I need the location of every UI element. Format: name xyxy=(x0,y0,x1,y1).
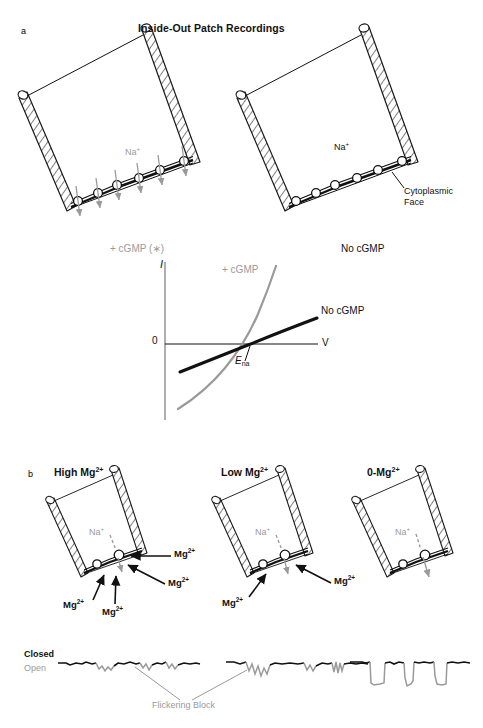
pipette-wall-left-b2 xyxy=(211,495,254,577)
sodium-label-left: Na+ xyxy=(125,147,140,157)
pipette-wall-right-2 xyxy=(358,23,418,165)
panel-a-letter: a xyxy=(21,26,26,36)
condition-label-low-mg: Low Mg2+ xyxy=(221,466,268,478)
mg-diagram-zero xyxy=(351,465,453,577)
condition-label-zero-mg: 0-Mg2+ xyxy=(367,466,400,478)
mg-label-b1-bottom: Mg2+ xyxy=(102,607,123,618)
pipette-wall-right-b2 xyxy=(275,465,313,556)
pipette-wall-right xyxy=(140,23,200,165)
mg-label-b2-right: Mg2+ xyxy=(334,576,355,587)
iv-curve-no-cgmp-label: No cGMP xyxy=(321,305,364,317)
trace-low-mg xyxy=(226,662,368,676)
sodium-label-b1: Na+ xyxy=(89,527,104,537)
iv-curve-cgmp xyxy=(178,266,276,409)
condition-label-high-mg: High Mg2+ xyxy=(54,466,104,478)
current-traces xyxy=(58,662,470,700)
sodium-label-right: Na+ xyxy=(334,142,349,152)
iv-reversal-potential-label: Ena xyxy=(235,355,249,367)
trace-high-mg xyxy=(58,662,200,671)
membrane-patch-2 xyxy=(289,160,411,207)
panel-a-title: Inside-Out Patch Recordings xyxy=(138,22,285,34)
condition-label-cgmp: + cGMP (∗) xyxy=(110,243,164,255)
mg-label-b1-left: Mg2+ xyxy=(63,600,84,611)
sodium-label-b3: Na+ xyxy=(395,527,410,537)
iv-origin-label: 0 xyxy=(152,335,158,347)
patch-diagram-cgmp xyxy=(17,23,200,216)
trace-zero-mg xyxy=(350,662,470,686)
sodium-label-b2: Na+ xyxy=(255,527,270,537)
mg-diagram-low xyxy=(211,465,331,597)
trace-label-open: Open xyxy=(24,663,46,673)
mg-label-b1-lowerright: Mg2+ xyxy=(168,578,189,589)
cytoplasmic-face-leader xyxy=(392,172,404,188)
flickering-block-leaders xyxy=(135,667,247,700)
pipette-wall-left xyxy=(17,89,76,211)
mg-label-b2-left: Mg2+ xyxy=(222,598,243,609)
cytoplasmic-face-label: Cytoplasmic Face xyxy=(404,186,453,209)
pipette-wall-left-b3 xyxy=(351,495,394,577)
condition-label-no-cgmp: No cGMP xyxy=(341,243,384,255)
pipette-wall-right-b3 xyxy=(415,465,453,556)
pipette-wall-left-b1 xyxy=(45,495,88,577)
pipette-wall-left-2 xyxy=(235,89,294,211)
iv-plot xyxy=(165,262,318,420)
patch-diagram-no-cgmp xyxy=(235,23,418,211)
pipette-wall-right-b1 xyxy=(109,465,147,556)
iv-curve-cgmp-label: + cGMP xyxy=(222,264,258,276)
iv-y-axis-label: I xyxy=(160,258,163,271)
trace-label-closed: Closed xyxy=(24,649,54,659)
mg-label-b1-right: Mg2+ xyxy=(174,549,195,560)
mg-diagram-high xyxy=(45,465,171,604)
flickering-block-label: Flickering Block xyxy=(152,700,215,710)
panel-b-letter: b xyxy=(28,469,33,479)
iv-x-axis-label: V xyxy=(322,337,329,349)
membrane-patch xyxy=(71,160,193,207)
